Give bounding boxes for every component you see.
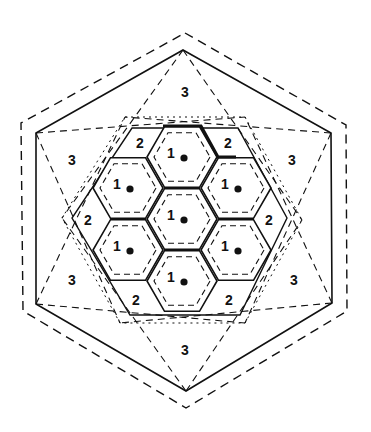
cell-label: 1 (167, 269, 175, 285)
cell-center-dot (234, 185, 241, 192)
cell-center-dot (180, 216, 187, 223)
cell-label: 1 (221, 238, 229, 254)
cell-center-dot (180, 278, 187, 285)
cell-center-dot (126, 247, 133, 254)
cell-center-dot (180, 154, 187, 161)
zone-2-label: 2 (224, 135, 232, 151)
zone-3-label: 3 (68, 152, 76, 168)
cell-label: 1 (221, 176, 229, 192)
zone-2-label: 2 (132, 292, 140, 308)
cell-label: 1 (113, 176, 121, 192)
zone-3-label: 3 (181, 84, 189, 100)
zone-2-label: 2 (84, 212, 92, 228)
zone-2-label: 2 (136, 135, 144, 151)
zone-3-label: 3 (181, 342, 189, 358)
cell-label: 1 (113, 238, 121, 254)
zone-2-label: 2 (225, 292, 233, 308)
zone-3-label: 3 (290, 272, 298, 288)
zone-1-cells: 1111111 (93, 126, 271, 311)
hexagonal-zone-diagram: 1111111 222222333333 (0, 0, 371, 432)
cell-label: 1 (167, 145, 175, 161)
cell-center-dot (126, 185, 133, 192)
zone-3-label: 3 (288, 152, 296, 168)
dashed-connector (125, 117, 331, 133)
cell-label: 1 (167, 207, 175, 223)
cell-center-dot (234, 247, 241, 254)
zone-2-label: 2 (265, 212, 273, 228)
dashed-connector (36, 117, 245, 133)
dashed-connector (36, 304, 245, 323)
zone-3-label: 3 (68, 272, 76, 288)
